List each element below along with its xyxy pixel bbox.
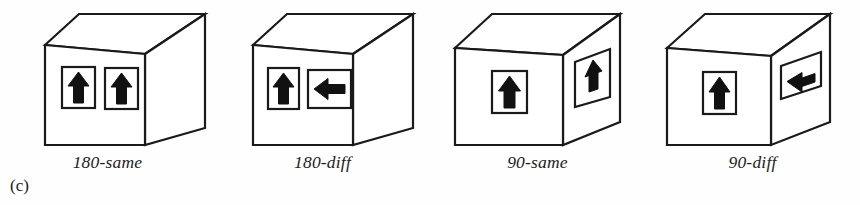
panel-caption: 90-same xyxy=(430,152,645,173)
arrow-frame-front-center xyxy=(492,71,527,113)
panel-180-same: 180-same xyxy=(0,0,215,205)
panel-caption: 180-same xyxy=(0,152,215,173)
panel-90-diff: 90-diff xyxy=(645,0,860,205)
box-illustration-180-diff xyxy=(215,0,430,205)
panel-180-diff: 180-diff xyxy=(215,0,430,205)
panel-caption: 180-diff xyxy=(215,152,430,173)
arrow-frame-front-right xyxy=(105,68,138,109)
figure-container: 180-same 180-diff xyxy=(0,0,860,205)
arrow-frame-front-left xyxy=(62,67,95,108)
box-illustration-90-diff xyxy=(645,0,860,205)
arrow-frame-front-center xyxy=(703,72,736,114)
panel-90-same: 90-same xyxy=(430,0,645,205)
panel-caption: 90-diff xyxy=(645,152,860,173)
box-illustration-90-same xyxy=(430,0,645,205)
arrow-frame-front-left xyxy=(268,68,299,109)
arrow-frame-front-right xyxy=(308,70,351,108)
subfigure-label: (c) xyxy=(10,176,29,196)
box-illustration-180-same xyxy=(0,0,215,205)
